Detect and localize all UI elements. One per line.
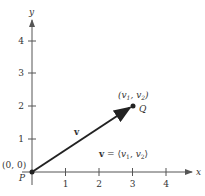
y-tick-label-1: 1 [18, 134, 24, 144]
vector-diagram: 1 2 3 4 1 2 3 4 x y (0, 0) P Q (v1, v2) … [0, 0, 205, 196]
vector-v-label: v [73, 127, 80, 137]
point-p [30, 170, 35, 175]
point-q-label: Q [139, 104, 147, 114]
x-tick-label-4: 4 [163, 179, 169, 189]
y-axis-label: y [28, 7, 35, 17]
y-tick-label-2: 2 [18, 101, 24, 111]
x-tick-label-2: 2 [96, 179, 102, 189]
point-p-coords: (0, 0) [2, 160, 26, 170]
x-axis-label: x [196, 167, 201, 177]
component-form-label: v = ⟨v1, v2⟩ [98, 149, 148, 160]
y-tick-label-4: 4 [18, 36, 24, 46]
x-tick-label-1: 1 [63, 179, 69, 189]
point-q-coords: (v1, v2) [118, 90, 149, 101]
y-tick-label-3: 3 [18, 68, 24, 78]
point-q [131, 104, 136, 109]
vector-v [32, 108, 130, 173]
x-tick-label-3: 3 [130, 179, 136, 189]
point-p-label: P [18, 173, 26, 183]
